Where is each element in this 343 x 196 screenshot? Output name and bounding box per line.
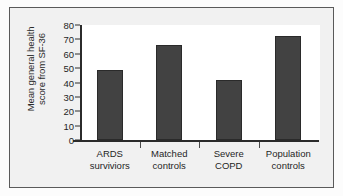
y-axis-tick-label: 70	[63, 34, 74, 45]
x-axis-label-line: surviviors	[90, 160, 130, 172]
y-axis-tick-labels: 01020304050607080	[52, 25, 74, 140]
x-axis-label-1: ARDSsurviviors	[80, 148, 140, 171]
x-axis-label-2: Matchedcontrols	[140, 148, 200, 171]
y-axis-tick-label: 80	[63, 20, 74, 31]
x-axis-label-line: Population	[266, 148, 311, 160]
y-axis-tick-label: 30	[63, 91, 74, 102]
x-axis-label-line: Severe	[214, 148, 244, 160]
x-axis-label-line: controls	[272, 160, 305, 172]
x-axis-label-line: controls	[153, 160, 186, 172]
x-axis-label-line: Matched	[151, 148, 187, 160]
x-axis-category-labels: ARDSsurviviorsMatchedcontrolsSevereCOPDP…	[80, 148, 318, 182]
bar-1	[97, 70, 123, 140]
bar-2	[156, 45, 182, 140]
x-axis-label-4: Populationcontrols	[259, 148, 319, 171]
y-axis-tick-label: 60	[63, 48, 74, 59]
x-axis-label-line: ARDS	[97, 148, 123, 160]
y-axis-title-line-2: score from SF-36	[36, 33, 47, 105]
y-axis-tick-label: 10	[63, 120, 74, 131]
figure-page: Mean general health score from SF-36 010…	[0, 0, 343, 196]
chart-figure-box: Mean general health score from SF-36 010…	[9, 7, 334, 188]
bar-3	[216, 80, 242, 140]
bar-4	[275, 36, 301, 140]
x-axis-label-line: COPD	[215, 160, 242, 172]
y-axis-title: Mean general health score from SF-36	[21, 10, 51, 128]
y-axis-tick-label: 20	[63, 106, 74, 117]
y-axis-title-line-1: Mean general health	[25, 27, 36, 112]
y-axis-tick-label: 50	[63, 63, 74, 74]
bar-series	[80, 25, 318, 140]
y-axis-tick-label: 40	[63, 77, 74, 88]
x-axis-label-3: SevereCOPD	[199, 148, 259, 171]
chart-canvas: Mean general health score from SF-36 010…	[10, 8, 333, 187]
